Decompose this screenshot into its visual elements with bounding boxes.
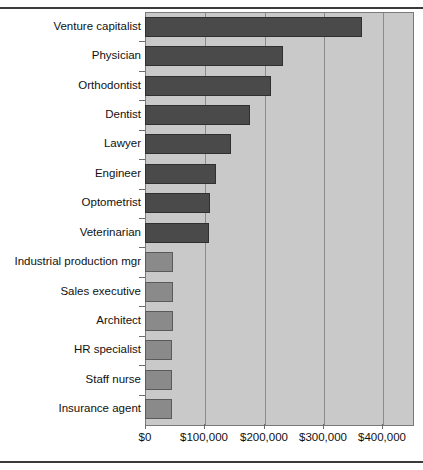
bar xyxy=(145,399,172,419)
category-label: Insurance agent xyxy=(0,402,141,415)
bottom-divider-rule xyxy=(0,461,423,463)
top-divider-rule xyxy=(0,7,423,9)
value-axis-labels: $0$100,000$200,000$300,000$400,000 xyxy=(0,430,423,450)
category-axis-tick xyxy=(139,100,145,101)
category-label: Venture capitalist xyxy=(0,20,141,33)
bar xyxy=(145,193,210,213)
category-label: Lawyer xyxy=(0,137,141,150)
category-label: Veterinarian xyxy=(0,226,141,239)
category-axis-tick xyxy=(139,277,145,278)
value-axis-tick xyxy=(382,424,383,429)
value-axis-tick xyxy=(264,424,265,429)
category-axis-labels: Venture capitalistPhysicianOrthodontistD… xyxy=(0,12,141,424)
category-axis-tick xyxy=(139,71,145,72)
value-axis-tick xyxy=(323,424,324,429)
category-label: Orthodontist xyxy=(0,79,141,92)
bar-chart-figure: Venture capitalistPhysicianOrthodontistD… xyxy=(0,0,423,470)
bar xyxy=(145,105,250,125)
category-label: Industrial production mgr xyxy=(0,255,141,268)
bar xyxy=(145,340,172,360)
category-axis-tick xyxy=(139,395,145,396)
category-label: Architect xyxy=(0,314,141,327)
category-axis-tick xyxy=(139,336,145,337)
category-label: Engineer xyxy=(0,167,141,180)
bar xyxy=(145,311,173,331)
category-label: Physician xyxy=(0,49,141,62)
value-axis-tick xyxy=(204,424,205,429)
bar xyxy=(145,252,173,272)
category-axis-tick xyxy=(139,247,145,248)
category-label: Optometrist xyxy=(0,196,141,209)
category-axis-tick xyxy=(139,130,145,131)
bar xyxy=(145,164,216,184)
bar xyxy=(145,134,231,154)
category-axis-tick xyxy=(139,159,145,160)
bar xyxy=(145,17,362,37)
bar xyxy=(145,223,209,243)
value-axis-tick-label: $0 xyxy=(139,430,152,444)
value-axis-tick-label: $300,000 xyxy=(299,430,347,444)
category-label: Dentist xyxy=(0,108,141,121)
bar xyxy=(145,282,173,302)
bar xyxy=(145,46,283,66)
category-axis-tick xyxy=(139,365,145,366)
category-label: Sales executive xyxy=(0,285,141,298)
value-axis-tick-label: $100,000 xyxy=(180,430,228,444)
value-axis-tick-label: $200,000 xyxy=(240,430,288,444)
category-label: HR specialist xyxy=(0,343,141,356)
bar xyxy=(145,76,271,96)
category-axis-tick xyxy=(139,189,145,190)
category-axis-tick xyxy=(139,306,145,307)
value-axis-tick xyxy=(145,424,146,429)
category-axis-tick xyxy=(139,41,145,42)
bars-container xyxy=(145,12,412,424)
bar xyxy=(145,370,172,390)
category-axis-tick xyxy=(139,218,145,219)
category-label: Staff nurse xyxy=(0,373,141,386)
value-axis-tick-label: $400,000 xyxy=(358,430,406,444)
